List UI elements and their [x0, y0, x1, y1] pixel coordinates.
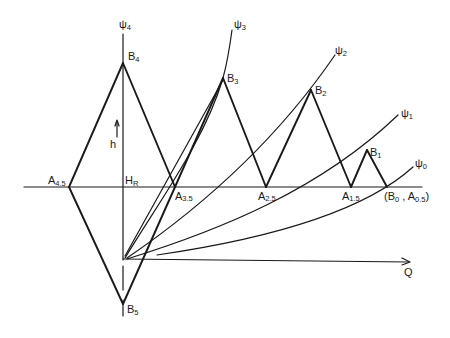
label-psi0: ψ0 [415, 157, 427, 171]
label-b5: B5 [127, 303, 139, 317]
label-b3: B3 [227, 72, 239, 86]
label-psi1: ψ1 [401, 107, 413, 121]
characteristic-diagram: ψ4 ψ3 ψ2 ψ1 ψ0 B4 B3 B2 B1 B5 A4.5 A3.5 … [0, 0, 450, 338]
label-b2: B2 [315, 84, 327, 98]
diamond-lower-left [69, 187, 123, 304]
label-a45: A4.5 [48, 174, 66, 188]
label-a35: A3.5 [175, 190, 193, 203]
label-psi4: ψ4 [119, 18, 131, 32]
label-q: Q [404, 266, 413, 278]
b1-left-line [351, 150, 367, 187]
label-h: h [110, 138, 116, 150]
b3-left-line [175, 78, 223, 187]
b2-left-line [266, 90, 311, 187]
b3-right-line [223, 78, 266, 187]
label-b1: B1 [370, 146, 382, 160]
label-b0-a05: (B0 , A0.5) [384, 190, 429, 204]
psi0-curve [157, 167, 413, 255]
label-a25: A2.5 [258, 190, 276, 203]
label-b4: B4 [128, 50, 140, 64]
label-psi2: ψ2 [335, 44, 347, 58]
q-axis [123, 259, 409, 262]
label-hr: HR [125, 174, 139, 188]
b2-right-line [311, 90, 351, 187]
label-psi3: ψ3 [234, 18, 246, 32]
b3-origin-line [125, 80, 223, 256]
psi3-curve [125, 30, 232, 258]
psi2-curve [127, 55, 335, 258]
label-a15: A1.5 [342, 190, 360, 203]
diamond-upper-right [123, 63, 175, 187]
